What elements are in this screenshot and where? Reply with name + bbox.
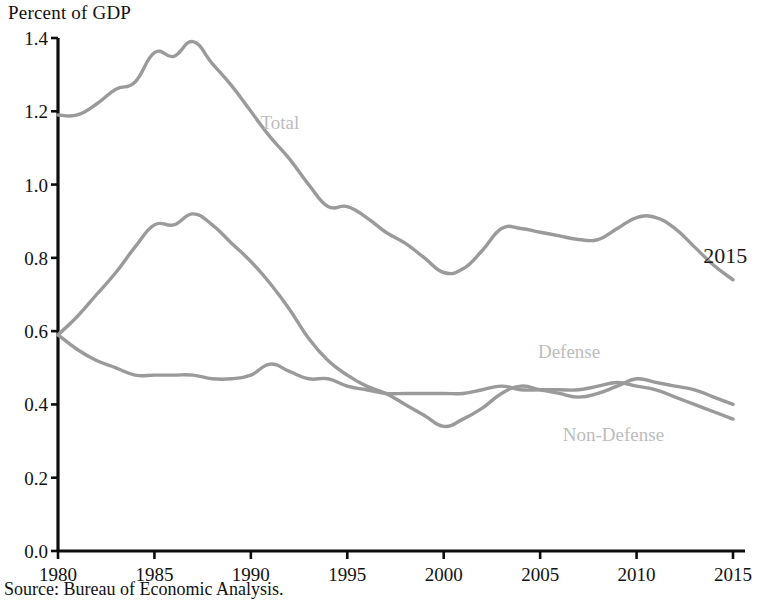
chart-series-group <box>58 42 733 427</box>
y-tick-label: 1.0 <box>2 175 48 194</box>
series-label-total: Total <box>260 113 299 132</box>
x-tick-label: 2000 <box>425 565 463 584</box>
x-tick-label: 1995 <box>328 565 366 584</box>
series-label-defense: Defense <box>538 342 600 361</box>
y-tick-label: 0.4 <box>2 395 48 414</box>
y-tick-label: 0.8 <box>2 248 48 267</box>
endpoint-year-label: 2015 <box>703 245 747 267</box>
series-line-total <box>58 42 733 280</box>
chart-source-note: Source: Bureau of Economic Analysis. <box>4 579 283 600</box>
y-tick-label: 0.0 <box>2 542 48 561</box>
x-tick-label: 2005 <box>521 565 559 584</box>
chart-root: Percent of GDP 1.41.21.00.80.60.40.20.0 … <box>0 0 759 606</box>
x-tick-label: 2010 <box>618 565 656 584</box>
y-tick-label: 1.2 <box>2 102 48 121</box>
y-tick-label: 0.6 <box>2 322 48 341</box>
x-tick-label: 2015 <box>714 565 752 584</box>
y-tick-label: 0.2 <box>2 468 48 487</box>
series-line-non-defense <box>58 335 733 419</box>
series-label-non-defense: Non-Defense <box>563 425 664 444</box>
y-tick-label: 1.4 <box>2 29 48 48</box>
chart-plot-area <box>0 0 759 606</box>
chart-axes <box>51 38 745 559</box>
